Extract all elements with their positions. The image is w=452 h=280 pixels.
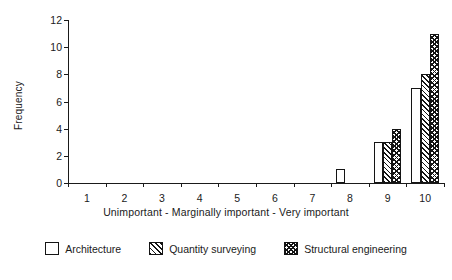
y-tick-label: 8 xyxy=(38,69,62,79)
bar xyxy=(430,34,439,183)
y-tick-label: 12 xyxy=(38,15,62,25)
x-tick-label: 10 xyxy=(410,192,440,204)
legend-item: Architecture xyxy=(45,242,121,255)
legend-swatch-icon xyxy=(149,242,163,255)
y-tick xyxy=(64,129,68,130)
y-tick-label: 10 xyxy=(38,42,62,52)
y-tick-label: 0 xyxy=(38,178,62,188)
bar xyxy=(411,88,420,183)
legend-item: Quantity surveying xyxy=(149,242,256,255)
x-tick xyxy=(294,183,295,187)
y-tick xyxy=(64,47,68,48)
bar xyxy=(421,74,430,183)
legend-swatch-icon xyxy=(284,242,298,255)
x-tick xyxy=(369,183,370,187)
y-tick xyxy=(64,102,68,103)
y-tick-label: 6 xyxy=(38,97,62,107)
x-tick xyxy=(406,183,407,187)
x-tick xyxy=(68,183,69,187)
x-tick-label: 2 xyxy=(109,192,139,204)
y-tick-label: 2 xyxy=(38,151,62,161)
x-tick-label: 7 xyxy=(297,192,327,204)
legend-item: Structural engineering xyxy=(284,242,407,255)
y-tick xyxy=(64,20,68,21)
x-tick-label: 8 xyxy=(335,192,365,204)
legend-swatch-icon xyxy=(45,242,59,255)
x-tick xyxy=(143,183,144,187)
x-tick-label: 3 xyxy=(147,192,177,204)
x-tick-label: 4 xyxy=(185,192,215,204)
x-tick xyxy=(256,183,257,187)
plot-area: 024681012 12345678910 xyxy=(68,20,444,183)
x-axis-title: Unimportant - Marginally important - Ver… xyxy=(0,206,452,218)
bar xyxy=(392,129,401,183)
legend-label: Quantity surveying xyxy=(169,243,256,255)
x-tick-label: 6 xyxy=(260,192,290,204)
legend-label: Architecture xyxy=(65,243,121,255)
chart-legend: ArchitectureQuantity surveyingStructural… xyxy=(0,242,452,255)
x-tick xyxy=(444,183,445,187)
y-axis-title: Frequency xyxy=(13,66,24,146)
x-tick-label: 1 xyxy=(72,192,102,204)
y-tick xyxy=(64,156,68,157)
x-tick xyxy=(106,183,107,187)
y-tick-label: 4 xyxy=(38,124,62,134)
bar xyxy=(336,169,345,183)
bar xyxy=(383,142,392,183)
x-tick xyxy=(218,183,219,187)
x-tick xyxy=(181,183,182,187)
y-axis-line xyxy=(68,20,69,184)
y-tick xyxy=(64,74,68,75)
x-tick xyxy=(331,183,332,187)
frequency-bar-chart: Frequency 024681012 12345678910 Unimport… xyxy=(0,0,452,280)
x-tick-label: 9 xyxy=(373,192,403,204)
bar xyxy=(374,142,383,183)
legend-label: Structural engineering xyxy=(304,243,407,255)
x-tick-label: 5 xyxy=(222,192,252,204)
